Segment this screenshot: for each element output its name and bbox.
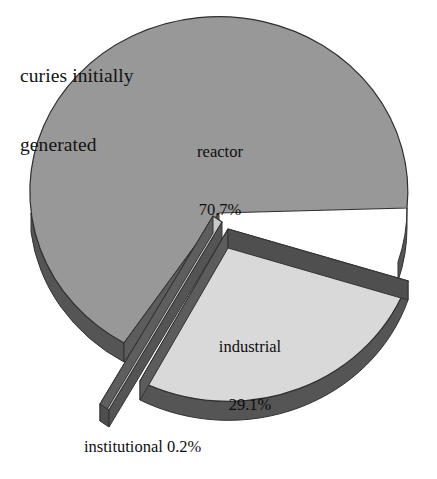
reactor-label-value: 70.7% [168, 200, 272, 219]
chart-title-line2: generated [20, 133, 134, 156]
industrial-label-value: 29.1% [190, 395, 310, 414]
slice-label-industrial: industrial 29.1% [190, 298, 310, 454]
slice-label-reactor: reactor 70.7% [168, 103, 272, 259]
slice-label-institutional: institutional 0.2% [84, 437, 201, 456]
chart-title-line1: curies initially [20, 64, 134, 87]
reactor-label-name: reactor [168, 142, 272, 161]
reactor-slice-side-right [398, 208, 407, 281]
industrial-label-name: industrial [190, 337, 310, 356]
chart-title: curies initially generated [20, 18, 134, 202]
pie-chart: curies initially generated reactor 70.7%… [0, 0, 437, 479]
